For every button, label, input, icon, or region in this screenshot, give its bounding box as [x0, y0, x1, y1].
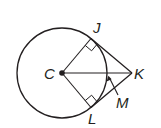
right-angle-marker-j	[85, 44, 97, 51]
tangent-jk	[91, 39, 132, 74]
label-j: J	[92, 19, 101, 36]
center-point-c	[59, 70, 65, 76]
right-angle-marker-l	[85, 95, 97, 102]
radius-cl	[62, 73, 91, 108]
label-l: L	[88, 110, 96, 127]
radius-cj	[62, 39, 91, 74]
label-c: C	[44, 65, 55, 82]
label-k: K	[134, 65, 145, 82]
tangent-circle-diagram: C J K L M	[0, 0, 161, 128]
label-m: M	[116, 94, 129, 111]
